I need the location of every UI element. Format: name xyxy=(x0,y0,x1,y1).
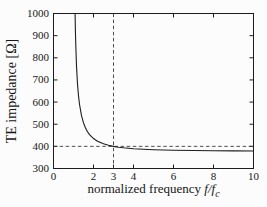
y-tick-label: 900 xyxy=(0,29,49,42)
x-tick-label: 8 xyxy=(201,170,227,183)
x-tick-label: 6 xyxy=(161,170,187,183)
te-impedance-figure: TE impedance [Ω] normalized frequency f/… xyxy=(0,0,267,207)
y-tick-label: 700 xyxy=(0,73,49,86)
x-tick-label: 4 xyxy=(121,170,147,183)
y-tick-label: 600 xyxy=(0,96,49,109)
x-axis-label-subscript: c xyxy=(215,188,219,199)
x-axis-label: normalized frequency f/fc xyxy=(53,181,254,196)
te-impedance-curve xyxy=(75,14,253,152)
y-tick-label: 800 xyxy=(0,51,49,64)
x-axis-label-text: normalized frequency xyxy=(87,181,204,196)
y-tick-label: 400 xyxy=(0,140,49,153)
x-tick-label: 10 xyxy=(241,170,267,183)
x-tick-label: 0 xyxy=(41,170,67,183)
x-axis-label-math: f/f xyxy=(204,181,215,196)
plot-frame xyxy=(54,14,254,169)
y-tick-label: 500 xyxy=(0,118,49,131)
y-tick-label: 1000 xyxy=(0,7,49,20)
